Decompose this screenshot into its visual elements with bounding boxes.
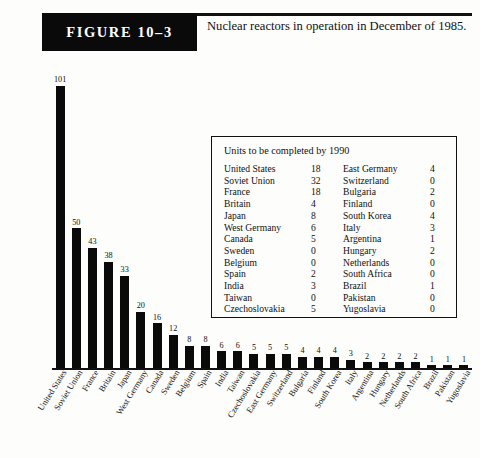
bar-slot: 43 [84, 72, 100, 368]
figure-caption: Nuclear reactors in operation in Decembe… [207, 19, 475, 35]
bar [298, 357, 307, 368]
inset-table-columns: United States18Soviet Union32France18Bri… [224, 163, 446, 315]
bar-slot: 101 [52, 72, 68, 368]
inset-table-row: Pakistan0 [343, 292, 446, 304]
inset-country-value: 2 [424, 186, 446, 198]
inset-country-value: 18 [305, 186, 327, 198]
bar-value-label: 5 [252, 344, 256, 352]
bar-value-label: 2 [381, 353, 385, 361]
inset-country-name: Sweden [224, 245, 254, 257]
bar-value-label: 2 [397, 353, 401, 361]
inset-country-value: 0 [305, 257, 327, 269]
inset-table-left-column: United States18Soviet Union32France18Bri… [224, 163, 327, 315]
inset-country-name: Taiwan [224, 292, 252, 304]
x-axis-category-labels: United StatesSoviet UnionFranceBritainJa… [52, 368, 472, 454]
inset-country-value: 2 [305, 268, 327, 280]
bar-slot: 8 [181, 72, 197, 368]
inset-table-row: Italy3 [343, 222, 446, 234]
inset-table-row: India3 [224, 280, 327, 292]
inset-table-row: Canada5 [224, 233, 327, 245]
inset-country-name: South Africa [343, 268, 392, 280]
inset-country-name: Switzerland [343, 175, 389, 187]
bar-slot: 33 [117, 72, 133, 368]
inset-country-name: Czechoslovakia [224, 303, 285, 315]
inset-country-value: 4 [424, 210, 446, 222]
inset-table-row: Taiwan0 [224, 292, 327, 304]
bar-value-label: 8 [187, 336, 191, 344]
inset-country-value: 6 [305, 222, 327, 234]
bar [282, 354, 291, 368]
bar-slot: 38 [100, 72, 116, 368]
bar [88, 248, 97, 368]
inset-country-value: 8 [305, 210, 327, 222]
inset-table-row: South Africa0 [343, 268, 446, 280]
bar-value-label: 1 [462, 356, 466, 364]
bar-value-label: 2 [365, 353, 369, 361]
inset-table-row: Bulgaria2 [343, 186, 446, 198]
inset-country-value: 0 [424, 198, 446, 210]
bar-value-label: 1 [430, 356, 434, 364]
inset-table-row: Switzerland0 [343, 175, 446, 187]
inset-table-panel: Units to be completed by 1990 United Sta… [211, 136, 457, 318]
inset-country-name: South Korea [343, 210, 391, 222]
bar [120, 276, 129, 368]
bar-value-label: 3 [349, 350, 353, 358]
bar-slot: 50 [68, 72, 84, 368]
inset-table-row: Belgium0 [224, 257, 327, 269]
inset-country-name: Hungary [343, 245, 377, 257]
inset-country-value: 4 [305, 198, 327, 210]
inset-country-name: Pakistan [343, 292, 376, 304]
bar-value-label: 50 [72, 219, 80, 227]
bar-value-label: 8 [203, 336, 207, 344]
bar [72, 228, 81, 368]
inset-country-value: 0 [424, 257, 446, 269]
inset-table-row: Czechoslovakia5 [224, 303, 327, 315]
bar-value-label: 4 [300, 347, 304, 355]
figure-page: FIGURE 10–3 Nuclear reactors in operatio… [0, 0, 480, 458]
inset-table-row: Sweden0 [224, 245, 327, 257]
inset-table-row: Hungary2 [343, 245, 446, 257]
inset-table-row: South Korea4 [343, 210, 446, 222]
inset-table-row: East Germany4 [343, 163, 446, 175]
inset-country-name: France [224, 186, 250, 198]
inset-country-value: 0 [305, 292, 327, 304]
inset-country-name: Belgium [224, 257, 257, 269]
inset-table-row: Yugoslavia0 [343, 303, 446, 315]
inset-country-name: Japan [224, 210, 246, 222]
bar-value-label: 5 [284, 344, 288, 352]
bar-value-label: 20 [137, 302, 145, 310]
figure-number-banner: FIGURE 10–3 [42, 13, 197, 51]
bar [185, 346, 194, 368]
inset-country-name: West Germany [224, 222, 281, 234]
bar-value-label: 38 [104, 252, 112, 260]
bar [153, 323, 162, 368]
bar-slot: 20 [133, 72, 149, 368]
bar [201, 346, 210, 368]
bar [217, 351, 226, 368]
inset-table-row: Argentina1 [343, 233, 446, 245]
bar-value-label: 4 [333, 347, 337, 355]
bar [249, 354, 258, 368]
inset-table-row: Britain4 [224, 198, 327, 210]
inset-table-row: France18 [224, 186, 327, 198]
bar-value-label: 12 [169, 325, 177, 333]
inset-country-name: United States [224, 163, 275, 175]
inset-country-value: 1 [424, 233, 446, 245]
inset-country-name: Brazil [343, 280, 366, 292]
inset-table-row: Japan8 [224, 210, 327, 222]
bar [169, 335, 178, 369]
bar [330, 357, 339, 368]
bar [104, 262, 113, 368]
inset-country-name: Spain [224, 268, 246, 280]
bar [266, 354, 275, 368]
inset-country-name: Soviet Union [224, 175, 275, 187]
bar-value-label: 6 [220, 342, 224, 350]
bar-slot: 16 [149, 72, 165, 368]
inset-country-value: 3 [305, 280, 327, 292]
inset-country-value: 0 [424, 292, 446, 304]
inset-table-row: West Germany6 [224, 222, 327, 234]
inset-country-name: Netherlands [343, 257, 389, 269]
bar [136, 312, 145, 368]
inset-table-row: Finland0 [343, 198, 446, 210]
inset-country-name: East Germany [343, 163, 398, 175]
